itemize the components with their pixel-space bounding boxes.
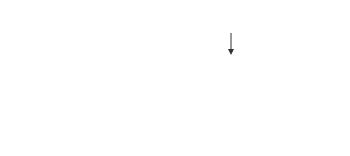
annotation-arrow	[228, 33, 234, 55]
disk-platter-diagram	[0, 0, 350, 156]
